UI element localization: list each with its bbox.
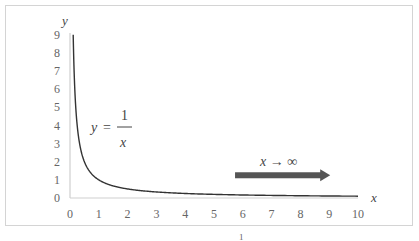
y-tick-label: 8 <box>54 46 60 60</box>
y-tick-label: 7 <box>54 64 60 78</box>
y-tick-label: 2 <box>54 155 60 169</box>
equation-label: y = 1 x <box>89 108 132 150</box>
page-number: 1 <box>239 232 244 241</box>
equation-lhs: y <box>89 120 98 135</box>
y-tick-label: 6 <box>54 82 60 96</box>
equation-numerator: 1 <box>121 108 128 123</box>
x-tick-label: 0 <box>67 207 73 221</box>
y-axis-label: y <box>60 13 68 28</box>
chart: 0123456789100123456789 y x y = 1 x x → ∞… <box>0 0 419 241</box>
x-tick-label: 6 <box>240 207 246 221</box>
x-tick-label: 10 <box>352 207 364 221</box>
y-tick-label: 4 <box>54 119 60 133</box>
limit-label: x → ∞ <box>259 154 297 169</box>
equation-denominator: x <box>119 135 127 150</box>
annotations: y x y = 1 x x → ∞ <box>60 13 377 205</box>
x-tick-label: 5 <box>211 207 217 221</box>
curve-reciprocal <box>73 35 358 196</box>
arrow-right-icon <box>235 169 330 181</box>
series <box>73 35 358 196</box>
x-tick-label: 1 <box>96 207 102 221</box>
equation-equals: = <box>103 120 111 135</box>
arrow-head <box>320 169 330 181</box>
arrow-shaft <box>235 172 321 178</box>
x-axis-label: x <box>370 190 377 205</box>
y-tick-label: 9 <box>54 28 60 42</box>
x-tick-label: 3 <box>153 207 159 221</box>
x-tick-label: 2 <box>125 207 131 221</box>
tick-labels: 0123456789100123456789 <box>54 28 364 221</box>
x-tick-label: 9 <box>326 207 332 221</box>
x-tick-label: 8 <box>297 207 303 221</box>
y-tick-label: 0 <box>54 191 60 205</box>
y-tick-label: 3 <box>54 137 60 151</box>
x-tick-label: 4 <box>182 207 188 221</box>
y-tick-label: 5 <box>54 100 60 114</box>
x-tick-label: 7 <box>269 207 275 221</box>
y-tick-label: 1 <box>54 173 60 187</box>
